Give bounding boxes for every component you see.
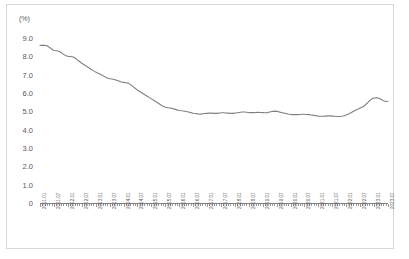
plot-area: 9.08.07.06.05.04.03.02.01.00 2011.012011…	[7, 5, 395, 250]
series-polyline	[40, 45, 388, 116]
series-line-chart	[7, 5, 395, 250]
chart-card: (%) 9.08.07.06.05.04.03.02.01.00 2011.01…	[6, 4, 394, 249]
